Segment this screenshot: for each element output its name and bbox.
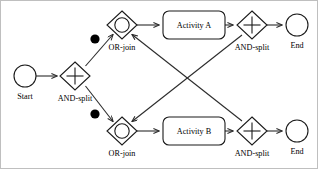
node-end-bottom-label: End bbox=[290, 147, 303, 156]
node-and-split-bottom-label: AND-split bbox=[235, 149, 270, 158]
node-or-join-bottom-label: OR-join bbox=[109, 149, 136, 158]
token-dot-lower bbox=[90, 109, 99, 118]
token-dot-upper bbox=[90, 34, 99, 43]
node-end-bottom[interactable] bbox=[286, 120, 308, 142]
node-or-join-top-label: OR-join bbox=[109, 43, 136, 52]
node-and-split-top-label: AND-split bbox=[235, 43, 270, 52]
node-end-top[interactable] bbox=[286, 14, 308, 36]
node-start[interactable] bbox=[14, 65, 36, 87]
diagram-canvas: Start AND-split OR-join OR-join Activity… bbox=[0, 0, 318, 169]
edge-and-split-to-or-join-bottom bbox=[86, 86, 114, 122]
node-end-top-label: End bbox=[290, 41, 303, 50]
image-frame bbox=[1, 1, 318, 169]
node-start-label: Start bbox=[17, 92, 33, 101]
node-and-split-main-label: AND-split bbox=[58, 94, 93, 103]
node-activity-b-label: Activity B bbox=[177, 127, 212, 136]
workflow-diagram: Start AND-split OR-join OR-join Activity… bbox=[0, 0, 318, 169]
node-activity-a-label: Activity A bbox=[177, 21, 211, 30]
